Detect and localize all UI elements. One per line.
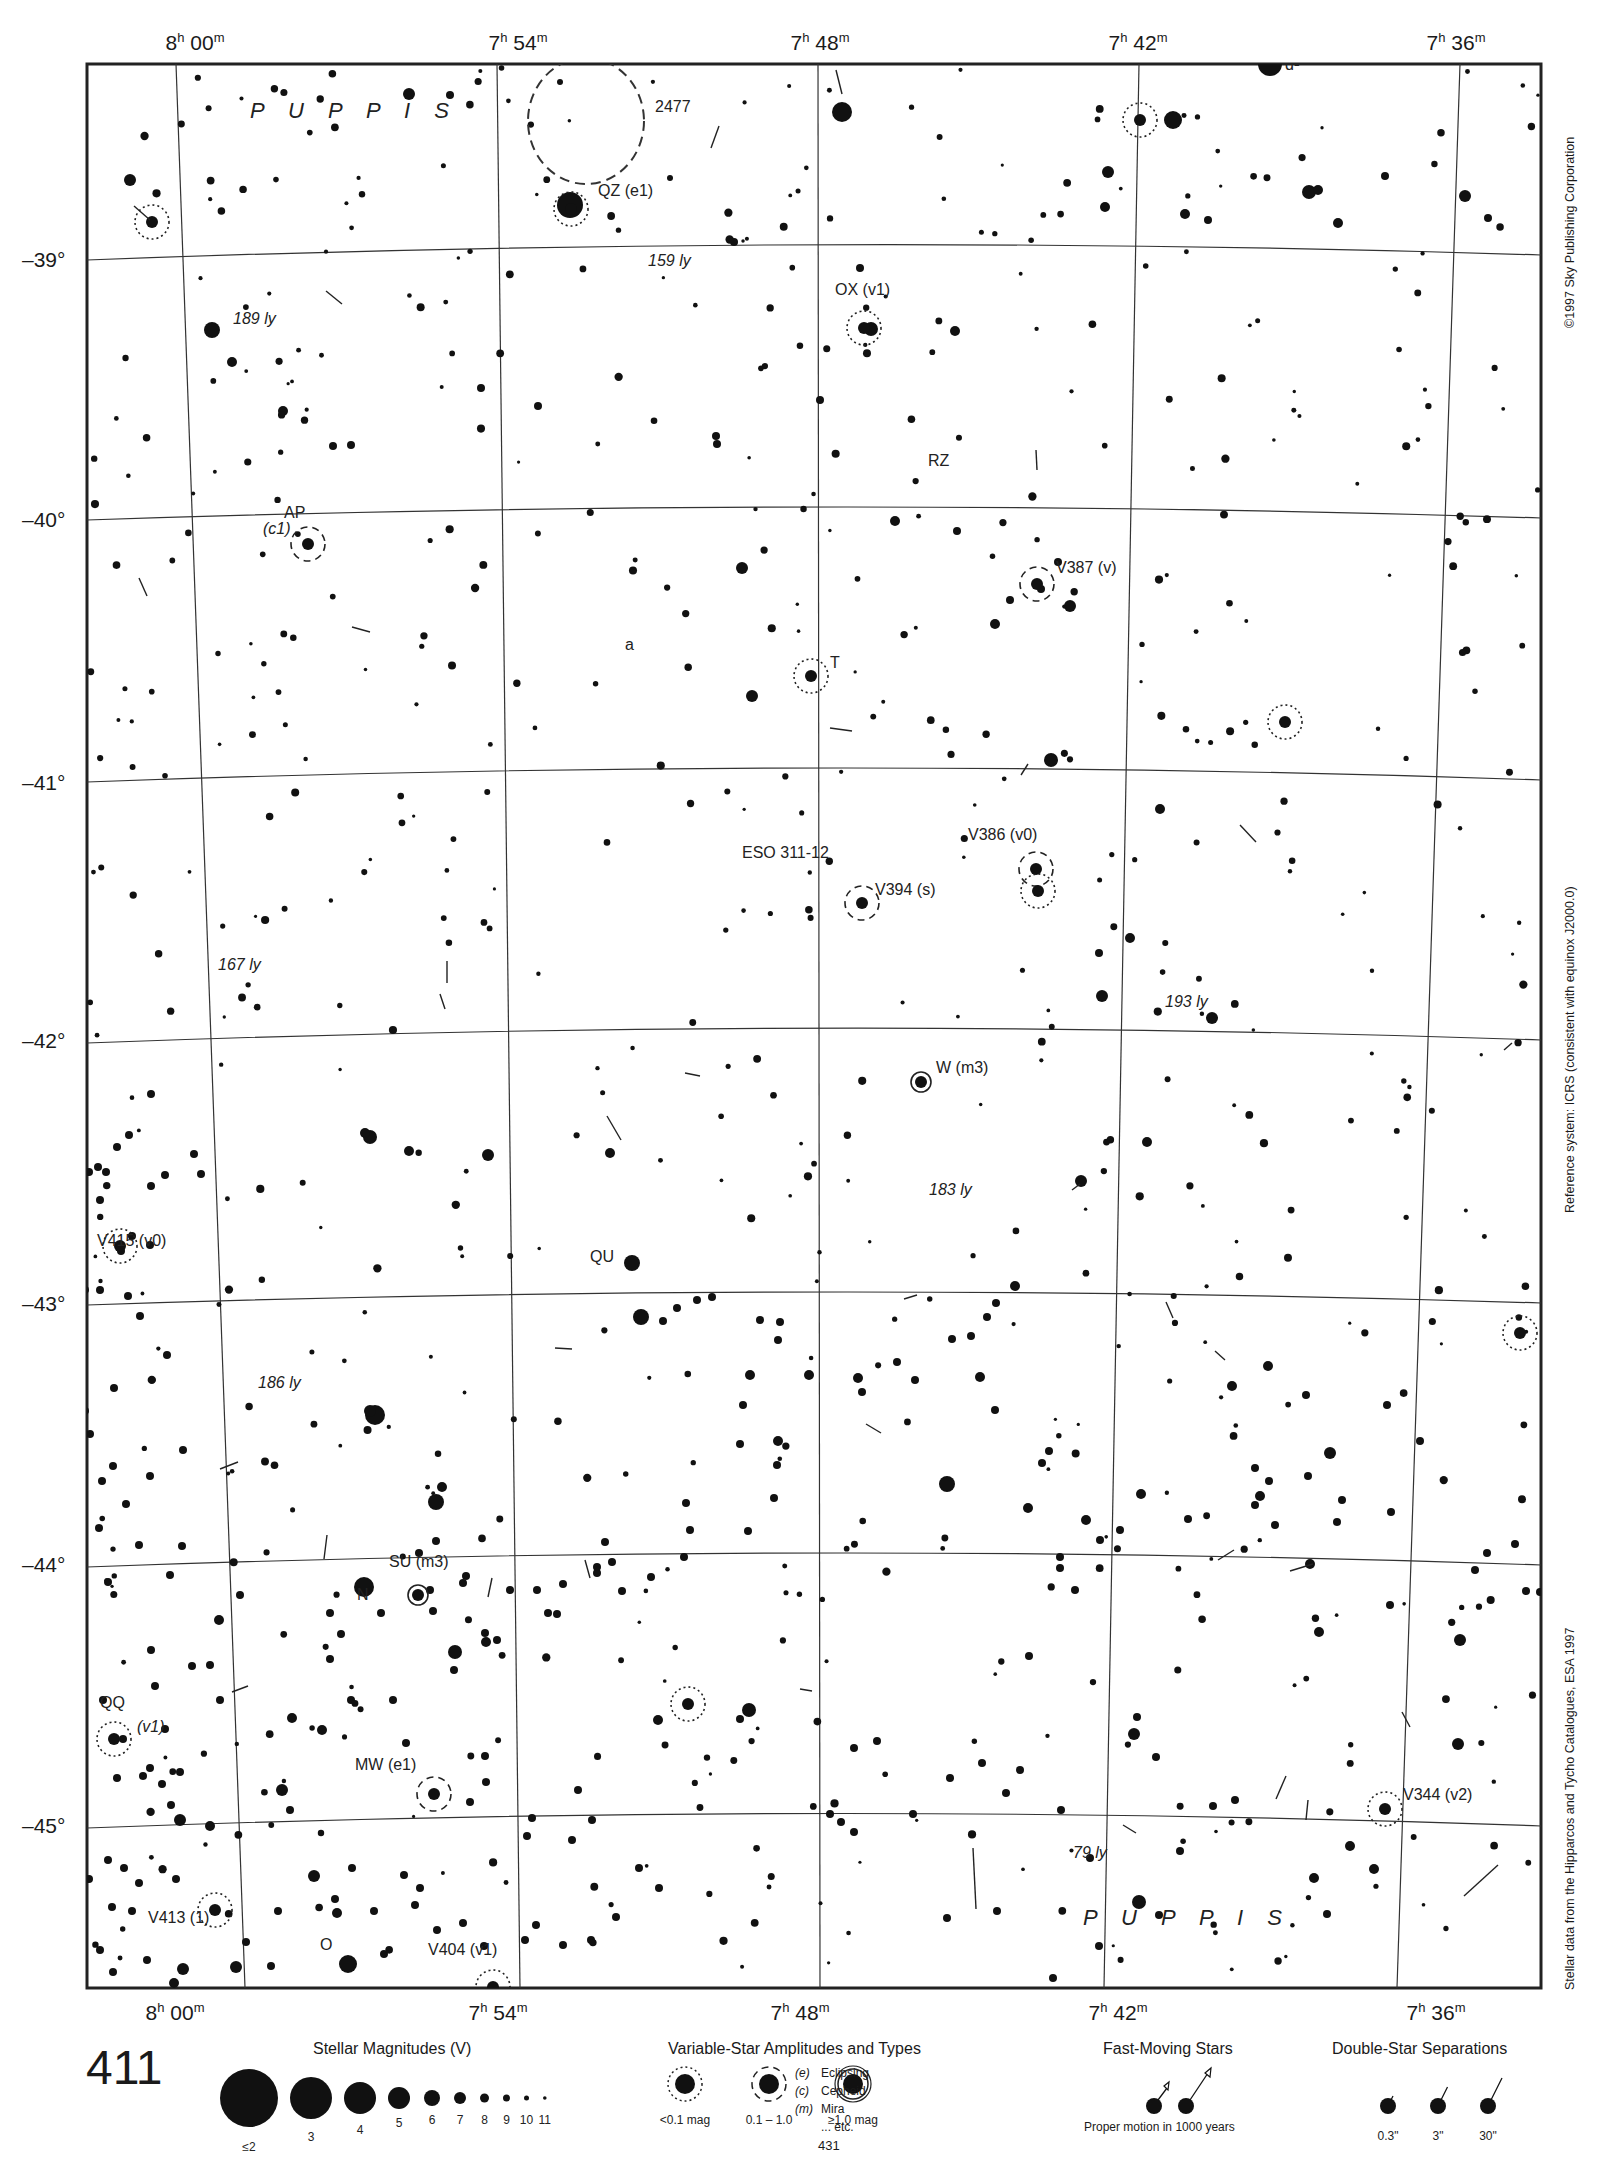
faint-star	[141, 1292, 145, 1296]
star	[169, 1978, 179, 1988]
faint-star	[471, 584, 479, 592]
faint-star	[777, 1456, 782, 1461]
object-label: 159 ly	[648, 252, 692, 269]
faint-star	[846, 1931, 851, 1936]
faint-star	[1049, 1024, 1055, 1030]
star	[1338, 1496, 1346, 1504]
adjacent-chart-number[interactable]: 431	[818, 2138, 840, 2153]
faint-star	[446, 939, 453, 946]
star	[109, 1462, 117, 1470]
star	[364, 1405, 376, 1417]
faint-star	[691, 1460, 696, 1465]
star	[816, 396, 824, 404]
star	[686, 1526, 694, 1534]
faint-star	[1525, 1860, 1531, 1866]
faint-star	[206, 105, 212, 111]
faint-star	[479, 561, 487, 569]
chart-page-number: 411	[86, 2040, 163, 2095]
faint-star	[855, 576, 861, 582]
faint-star	[425, 1485, 430, 1490]
faint-star	[1285, 1402, 1291, 1408]
faint-star	[1200, 1011, 1204, 1015]
faint-star	[1072, 1450, 1080, 1458]
faint-star	[1139, 680, 1142, 683]
faint-star	[600, 1090, 605, 1095]
faint-star	[1517, 921, 1521, 925]
star	[1125, 933, 1135, 943]
faint-star	[1463, 519, 1469, 525]
faint-star	[1104, 1535, 1108, 1539]
faint-star	[385, 1946, 393, 1954]
star	[1116, 1526, 1124, 1534]
faint-star	[87, 1000, 93, 1006]
star	[462, 1572, 470, 1580]
faint-star	[239, 186, 246, 193]
faint-star	[1013, 1228, 1020, 1235]
faint-star	[1355, 482, 1359, 486]
faint-star	[1243, 720, 1248, 725]
object-label: V344 (v2)	[1403, 1786, 1472, 1803]
star	[1056, 1553, 1064, 1561]
faint-star	[244, 369, 248, 373]
star	[521, 1936, 529, 1944]
faint-star	[1272, 438, 1276, 442]
faint-star	[799, 1142, 803, 1146]
faint-star	[1514, 1039, 1521, 1046]
faint-star	[389, 1026, 397, 1034]
star	[528, 1814, 536, 1822]
faint-star	[507, 1253, 513, 1259]
star	[1025, 1652, 1033, 1660]
faint-star	[914, 626, 918, 630]
faint-star	[330, 594, 336, 600]
faint-star	[1289, 857, 1296, 864]
faint-star	[97, 1214, 103, 1220]
legend-fast-moving	[1130, 2060, 1220, 2120]
star	[1006, 596, 1014, 604]
faint-star	[481, 919, 488, 926]
star	[205, 1821, 215, 1831]
faint-star	[499, 65, 505, 71]
star	[1204, 216, 1212, 224]
faint-star	[828, 529, 831, 532]
star	[909, 1810, 917, 1818]
faint-star	[441, 1871, 445, 1875]
faint-star	[278, 450, 283, 455]
faint-star	[768, 911, 773, 916]
dec-label: –39°	[22, 248, 65, 272]
faint-star	[463, 1391, 467, 1395]
faint-star	[1293, 1683, 1297, 1687]
ra-label: 7h 36m	[1427, 30, 1486, 55]
faint-star	[1250, 173, 1257, 180]
faint-star	[724, 788, 730, 794]
faint-star	[1235, 1240, 1239, 1244]
faint-star	[126, 473, 131, 478]
faint-star	[685, 1371, 692, 1378]
faint-star	[201, 1751, 207, 1757]
faint-star	[112, 1573, 117, 1578]
star	[113, 1774, 121, 1782]
faint-star	[913, 478, 919, 484]
star	[389, 1696, 397, 1704]
faint-star	[1186, 1182, 1193, 1189]
faint-star	[1205, 1284, 1209, 1288]
star	[946, 1774, 954, 1782]
object-label: 189 ly	[233, 310, 277, 327]
faint-star	[120, 1926, 125, 1931]
faint-star	[342, 1734, 347, 1739]
faint-star	[448, 662, 456, 670]
star	[227, 357, 237, 367]
star	[826, 1810, 834, 1818]
faint-star	[188, 870, 192, 874]
faint-star	[94, 1255, 98, 1259]
legend-fast-moving-title: Fast-Moving Stars	[1103, 2040, 1233, 2058]
star	[147, 1182, 155, 1190]
faint-star	[271, 85, 278, 92]
faint-star	[218, 743, 222, 747]
faint-star	[496, 1516, 503, 1523]
svg-text:30": 30"	[1479, 2129, 1497, 2143]
object-label: QU	[590, 1248, 614, 1265]
faint-star	[146, 1808, 154, 1816]
faint-star	[1077, 1423, 1080, 1426]
star	[1345, 1841, 1355, 1851]
faint-star	[169, 558, 175, 564]
